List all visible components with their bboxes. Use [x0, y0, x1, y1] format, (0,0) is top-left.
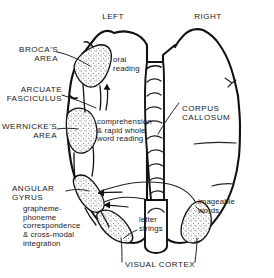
brain-language-areas-figure: BROCA'S AREA ARCUATE FASCICULUS WERNICKE…	[0, 0, 274, 278]
label-corpus-callosum: CORPUS CALLOSUM	[182, 104, 252, 122]
label-imageable-words: imageable words	[198, 198, 254, 215]
label-letter-strings: letter strings	[139, 216, 181, 233]
leader-visual-left	[121, 238, 122, 262]
label-angular-gyrus-detail: grapheme- phoneme correspondence & cross…	[23, 205, 99, 249]
label-wernickes-area: WERNICKE'S AREA	[0, 122, 57, 140]
label-hemisphere-right: RIGHT	[186, 12, 230, 21]
label-comprehension: comprehension & rapid whole word reading	[97, 118, 159, 144]
label-arcuate-fasciculus: ARCUATE FASCICULUS	[0, 85, 62, 103]
label-visual-cortex: VISUAL CORTEX	[119, 260, 201, 269]
label-brocas-area: BROCA'S AREA	[0, 45, 58, 63]
wernickes-area-region	[66, 108, 97, 153]
label-angular-gyrus: ANGULAR GYRUS	[12, 184, 72, 202]
label-hemisphere-left: LEFT	[93, 12, 133, 21]
label-oral-reading: oral reading	[113, 56, 157, 73]
